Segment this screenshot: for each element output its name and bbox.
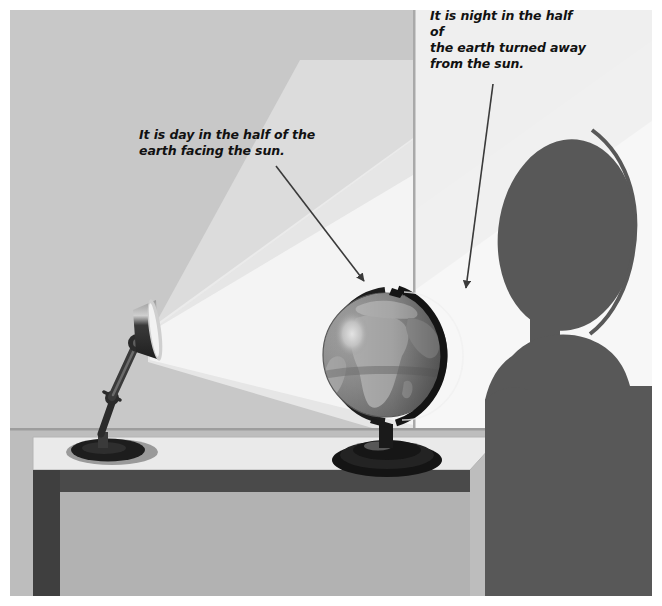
desk-leg-left [33,470,60,597]
globe-specular-highlight [335,312,369,356]
figure-canvas: It is day in the half of the earth facin… [0,0,662,606]
globe-stem [379,424,393,448]
desk-under-shadow [60,492,470,597]
illustration [0,0,662,606]
